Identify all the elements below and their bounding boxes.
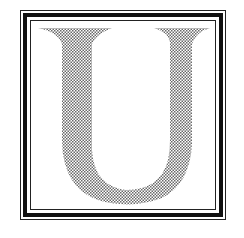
stippled-letter-u: U bbox=[0, 0, 244, 238]
